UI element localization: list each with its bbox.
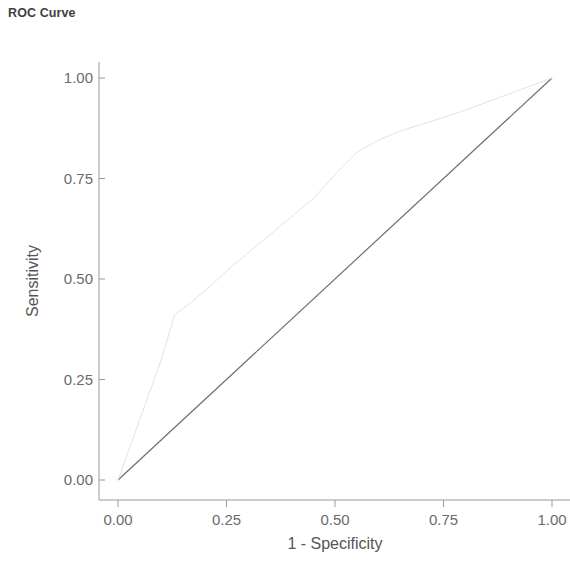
x-axis-tick-label: 0.00	[103, 511, 132, 528]
plot-area: 0.000.250.500.751.00 0.000.250.500.751.0…	[0, 0, 570, 561]
x-axis-tick-label: 0.75	[429, 511, 458, 528]
y-axis-title: Sensitivity	[24, 245, 41, 317]
roc-chart-figure: ROC Curve 0.000.250.500.751.00 0.000.250…	[0, 0, 570, 561]
x-axis-tick-label: 0.25	[212, 511, 241, 528]
y-axis-tick-label: 0.25	[64, 371, 93, 388]
y-axis-tick-label: 1.00	[64, 69, 93, 86]
y-axis-tick-label: 0.50	[64, 270, 93, 287]
x-axis-ticks: 0.000.250.500.751.00	[103, 500, 566, 528]
reference-diagonal-line	[118, 78, 552, 480]
x-axis-tick-label: 0.50	[320, 511, 349, 528]
x-axis-tick-label: 1.00	[537, 511, 566, 528]
x-axis-title: 1 - Specificity	[287, 535, 382, 552]
y-axis-tick-label: 0.00	[64, 471, 93, 488]
y-axis-tick-label: 0.75	[64, 170, 93, 187]
